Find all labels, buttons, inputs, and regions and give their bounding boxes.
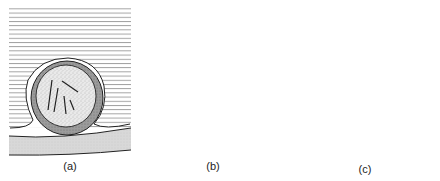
panel-a-label: (a) [50,160,90,172]
panel-a [9,6,131,155]
panel-c-label: (c) [345,163,385,175]
particle-core [36,65,96,127]
figure-canvas [0,0,440,181]
panel-b-label: (b) [193,160,233,172]
